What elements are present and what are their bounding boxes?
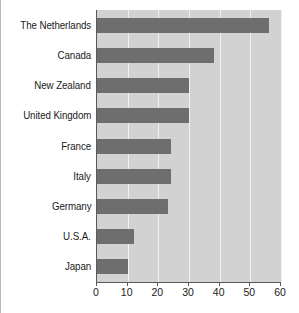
x-tick-label: 0 bbox=[93, 286, 99, 299]
category-label: Italy bbox=[74, 169, 91, 184]
category-label: The Netherlands bbox=[20, 18, 91, 33]
bar bbox=[97, 18, 269, 33]
bar bbox=[97, 139, 171, 154]
bar bbox=[97, 169, 171, 184]
category-label: Japan bbox=[65, 259, 91, 274]
x-axis: 0102030405060 bbox=[96, 283, 281, 299]
bar-chart-figure: The NetherlandsCanadaNew ZealandUnited K… bbox=[0, 0, 299, 313]
category-label: United Kingdom bbox=[23, 108, 91, 123]
gridline bbox=[250, 10, 251, 282]
bar bbox=[97, 259, 128, 274]
gridline bbox=[281, 10, 282, 282]
x-tick-label: 40 bbox=[213, 286, 225, 299]
gridline bbox=[220, 10, 221, 282]
x-tick-label: 60 bbox=[274, 286, 286, 299]
bar bbox=[97, 78, 189, 93]
category-label: Canada bbox=[57, 48, 91, 63]
bar bbox=[97, 48, 214, 63]
category-label: U.S.A. bbox=[63, 229, 91, 244]
x-tick-label: 10 bbox=[121, 286, 133, 299]
category-label-column: The NetherlandsCanadaNew ZealandUnited K… bbox=[1, 10, 94, 282]
x-tick-label: 50 bbox=[243, 286, 255, 299]
category-label: Germany bbox=[51, 199, 91, 214]
x-tick-label: 20 bbox=[151, 286, 163, 299]
bar bbox=[97, 229, 134, 244]
bar bbox=[97, 199, 168, 214]
x-tick-label: 30 bbox=[182, 286, 194, 299]
bar bbox=[97, 108, 189, 123]
category-label: New Zealand bbox=[34, 78, 91, 93]
plot-area bbox=[96, 10, 281, 283]
category-label: France bbox=[61, 139, 91, 154]
